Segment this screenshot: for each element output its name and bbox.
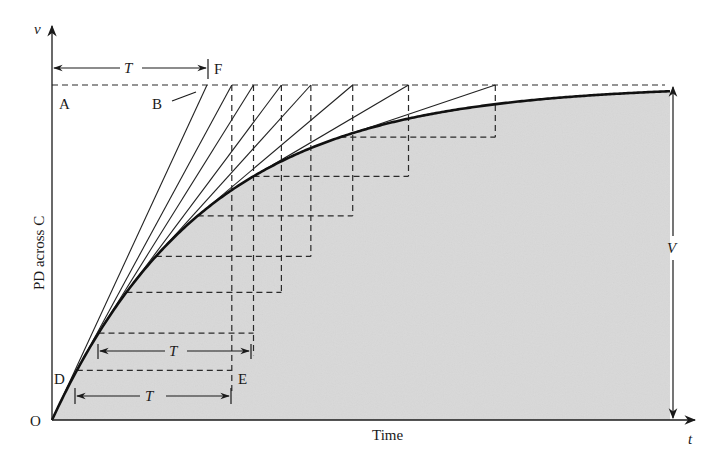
top-t-label: T	[124, 60, 134, 76]
point-a-label: A	[59, 96, 70, 112]
y-axis-label: PD across C	[31, 216, 47, 290]
x-axis-symbol: t	[688, 431, 693, 447]
point-b-label: B	[152, 96, 162, 112]
origin-label: O	[30, 413, 41, 429]
capacitor-charging-diagram: v PD across C t Time O A B F D E T T T V	[0, 0, 722, 462]
final-voltage-label: V	[667, 240, 678, 256]
point-d-label: D	[54, 371, 65, 387]
area-under-curve	[52, 91, 670, 420]
x-axis-label: Time	[372, 427, 403, 443]
y-axis-symbol: v	[34, 21, 41, 37]
point-f-label: F	[214, 61, 222, 77]
b-leader-line	[172, 92, 196, 101]
point-e-label: E	[238, 371, 247, 387]
